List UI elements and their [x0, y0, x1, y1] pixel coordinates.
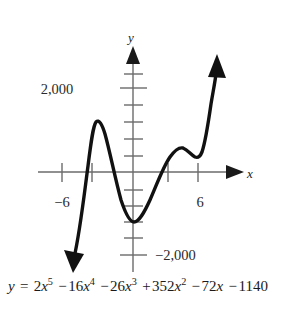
curve-left-arrowhead: [64, 250, 84, 273]
equation-sign: −: [190, 278, 201, 294]
equation-sign: −: [99, 278, 110, 294]
equation-term: 72x: [202, 278, 224, 294]
equation-caption: y = 2x5 −16x4 −26x3 +352x2 −72x −1140: [8, 279, 288, 294]
polynomial-curve-group: [64, 54, 226, 273]
x-tick-label-minus-6: −6: [54, 194, 69, 210]
y-tick-label-2000: 2,000: [41, 81, 74, 97]
equation-sign: −: [227, 278, 238, 294]
equation-term: 16x4: [68, 278, 95, 294]
graph-canvas: y x 2,000 −2,000 −6 6: [0, 0, 290, 276]
equation-term: 2x5: [34, 278, 53, 294]
curve-right-arrowhead: [208, 54, 226, 78]
y-axis-arrowhead: [126, 46, 140, 64]
equation-equals: =: [18, 278, 29, 294]
equation-term: 1140: [238, 278, 267, 294]
x-tick-label-6: 6: [196, 194, 203, 210]
y-tick-label-minus-2000: −2,000: [155, 247, 196, 263]
x-axis-label: x: [246, 166, 253, 181]
polynomial-graph-figure: y x 2,000 −2,000 −6 6 y = 2x5 −16x4 −26x…: [0, 0, 290, 312]
x-axis-arrowhead: [226, 165, 244, 179]
equation-sign: −: [57, 278, 68, 294]
polynomial-curve: [74, 74, 216, 258]
equation-lhs: y: [8, 278, 15, 294]
equation-term: 26x3: [110, 278, 137, 294]
equation-sign: +: [141, 278, 152, 294]
equation-term: 352x2: [152, 278, 186, 294]
y-axis-label: y: [126, 30, 134, 45]
